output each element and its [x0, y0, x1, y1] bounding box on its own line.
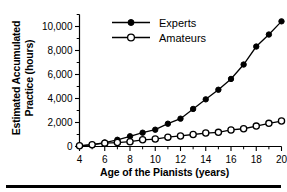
- x-tick-label: 8: [127, 154, 133, 165]
- x-axis-title: Age of the Pianists (years): [0, 166, 287, 178]
- data-point: [241, 126, 247, 132]
- x-tick-label: 12: [175, 154, 187, 165]
- data-point: [203, 97, 208, 102]
- y-tick-label: 8,000: [47, 45, 72, 56]
- data-point: [76, 143, 82, 149]
- filled-circle-icon: [128, 20, 134, 26]
- chart-legend: ExpertsAmateurs: [112, 17, 207, 44]
- data-point: [127, 139, 133, 145]
- data-point: [190, 106, 195, 111]
- y-tick-label: 0: [67, 141, 73, 152]
- major-tick-marks: [75, 27, 282, 152]
- line-chart-plot: 02,0004,0006,0008,00010,000 468101214161…: [0, 0, 287, 192]
- legend-item-experts: Experts: [112, 17, 197, 29]
- data-point: [216, 87, 221, 92]
- data-point: [89, 142, 95, 148]
- x-tick-label: 10: [150, 154, 162, 165]
- legend-label: Amateurs: [159, 32, 207, 44]
- open-circle-icon: [128, 34, 135, 41]
- data-point: [278, 118, 284, 124]
- x-tick-label: 16: [225, 154, 237, 165]
- y-axis-tick-labels: 02,0004,0006,0008,00010,000: [42, 21, 73, 152]
- data-point: [266, 120, 272, 126]
- data-point: [279, 19, 284, 24]
- y-tick-label: 6,000: [47, 69, 72, 80]
- x-tick-label: 20: [276, 154, 287, 165]
- data-point: [266, 32, 271, 37]
- data-point: [190, 131, 196, 137]
- chart-figure: Estimated Accumulated Practice (hours) 0…: [0, 0, 287, 192]
- y-axis-title-line1: Estimated Accumulated: [10, 21, 23, 135]
- data-point: [102, 140, 108, 146]
- data-point: [140, 130, 145, 135]
- y-tick-label: 4,000: [47, 93, 72, 104]
- data-point: [241, 62, 246, 67]
- data-point: [228, 127, 234, 133]
- data-point: [114, 139, 120, 145]
- y-axis-title: Estimated Accumulated Practice (hours): [2, 8, 42, 148]
- y-tick-label: 10,000: [42, 21, 73, 32]
- data-point: [177, 133, 183, 139]
- data-point: [203, 130, 209, 136]
- x-tick-label: 6: [102, 154, 108, 165]
- data-point: [153, 127, 158, 132]
- series-amateurs: [76, 118, 284, 149]
- bottom-divider: [6, 185, 281, 188]
- x-tick-label: 14: [200, 154, 212, 165]
- x-tick-label: 18: [251, 154, 263, 165]
- x-axis-tick-labels: 468101214161820: [77, 154, 287, 165]
- data-point: [178, 116, 183, 121]
- y-tick-label: 2,000: [47, 117, 72, 128]
- legend-item-amateurs: Amateurs: [112, 32, 207, 44]
- data-point: [215, 129, 221, 135]
- y-axis-title-line2: Practice (hours): [22, 21, 35, 135]
- data-point: [254, 44, 259, 49]
- data-point: [228, 76, 233, 81]
- data-point: [140, 137, 146, 143]
- x-tick-label: 4: [77, 154, 83, 165]
- data-point: [165, 134, 171, 140]
- legend-label: Experts: [159, 17, 197, 29]
- data-point: [165, 121, 170, 126]
- data-point: [152, 136, 158, 142]
- x-axis-title-text: Age of the Pianists (years): [58, 166, 229, 178]
- data-point: [253, 123, 259, 129]
